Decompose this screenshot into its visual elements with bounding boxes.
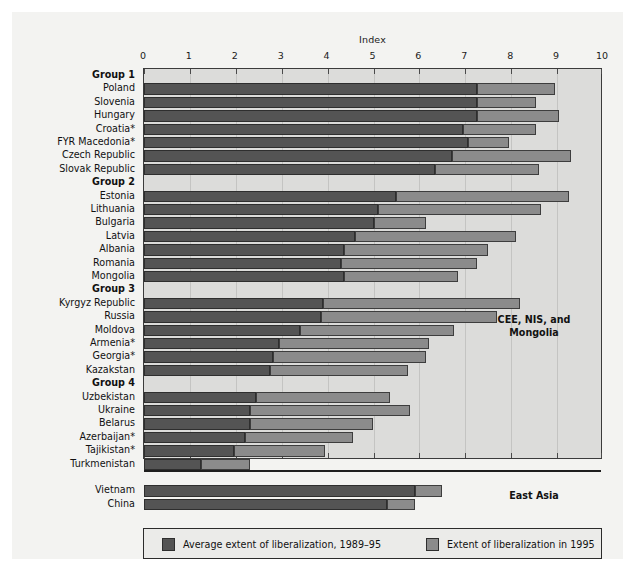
bar-extent-1995 — [321, 311, 498, 322]
chart-bar-row — [144, 297, 601, 310]
category-label: Bulgaria — [95, 215, 135, 228]
x-tick-mark — [190, 69, 191, 74]
chart-bar-row — [144, 216, 601, 229]
x-tick-mark — [328, 69, 329, 74]
bar-average-1989-95 — [144, 351, 273, 362]
category-label: Ukraine — [98, 403, 135, 416]
x-tick-label: 6 — [415, 50, 421, 61]
bar-average-1989-95 — [144, 338, 279, 349]
x-tick-label: 7 — [461, 50, 467, 61]
x-axis-tick-labels: 012345678910 — [143, 50, 602, 64]
chart-bar-row — [144, 391, 601, 404]
category-label: Moldova — [95, 323, 135, 336]
x-tick-label: 1 — [186, 50, 192, 61]
group-label: Group 4 — [92, 376, 135, 389]
bar-extent-1995 — [463, 124, 536, 135]
category-label: Romania — [93, 256, 135, 269]
x-tick-mark — [236, 69, 237, 74]
y-axis-category-labels: Group 1PolandSloveniaHungaryCroatia*FYR … — [26, 68, 139, 459]
chart-bar-row — [144, 203, 601, 216]
bar-extent-1995 — [415, 485, 443, 496]
category-label: Albania — [99, 242, 135, 255]
bar-extent-1995 — [256, 392, 389, 403]
bar-average-1989-95 — [144, 499, 387, 510]
chart-bar-row — [144, 136, 601, 149]
chart-bar-row — [144, 257, 601, 270]
chart-panel: Index 012345678910 Group 1PolandSlovenia… — [12, 12, 623, 559]
bar-extent-1995 — [273, 351, 427, 362]
category-label: Poland — [103, 81, 135, 94]
chart-bar-row — [144, 337, 601, 350]
x-tick-mark — [601, 69, 602, 74]
bar-average-1989-95 — [144, 124, 463, 135]
bar-average-1989-95 — [144, 432, 245, 443]
legend-label: Average extent of liberalization, 1989–9… — [183, 539, 381, 550]
plot-area: CEE, NIS, andMongolia East Asia — [143, 68, 602, 459]
legend-swatch-light — [426, 538, 439, 551]
bar-extent-1995 — [477, 110, 560, 121]
x-tick-label: 2 — [232, 50, 238, 61]
bar-average-1989-95 — [144, 83, 477, 94]
x-tick-mark — [601, 453, 602, 458]
chart-bar-row — [144, 82, 601, 95]
bar-extent-1995 — [468, 137, 509, 148]
bar-extent-1995 — [300, 325, 454, 336]
bar-extent-1995 — [279, 338, 428, 349]
chart-screenshot: Index 012345678910 Group 1PolandSlovenia… — [0, 0, 635, 571]
bar-extent-1995 — [387, 499, 415, 510]
chart-bar-row — [144, 350, 601, 363]
x-tick-label: 9 — [553, 50, 559, 61]
bar-average-1989-95 — [144, 392, 256, 403]
bar-average-1989-95 — [144, 217, 374, 228]
x-tick-label: 4 — [324, 50, 330, 61]
category-label: Azerbaijan* — [79, 430, 135, 443]
chart-bar-row — [144, 458, 601, 471]
x-tick-label: 0 — [140, 50, 146, 61]
x-tick-label: 5 — [369, 50, 375, 61]
bar-average-1989-95 — [144, 271, 344, 282]
bar-average-1989-95 — [144, 365, 270, 376]
chart-bar-row — [144, 190, 601, 203]
chart-bar-row — [144, 444, 601, 457]
category-label: Slovak Republic — [59, 162, 135, 175]
category-label: Kazakstan — [86, 363, 135, 376]
x-tick-mark — [419, 69, 420, 74]
bar-average-1989-95 — [144, 164, 435, 175]
legend-swatch-dark — [162, 538, 175, 551]
bar-extent-1995 — [344, 244, 489, 255]
bar-extent-1995 — [477, 83, 555, 94]
chart-legend: Average extent of liberalization, 1989–9… — [143, 528, 602, 559]
category-label: Armenia* — [90, 336, 135, 349]
bar-average-1989-95 — [144, 191, 396, 202]
group-label: Group 3 — [92, 282, 135, 295]
bar-extent-1995 — [250, 418, 374, 429]
x-axis-title: Index — [143, 34, 602, 45]
category-label: Russia — [104, 309, 135, 322]
bar-extent-1995 — [477, 97, 537, 108]
bar-extent-1995 — [323, 298, 520, 309]
bar-extent-1995 — [250, 405, 411, 416]
x-tick-mark — [144, 69, 145, 74]
bar-average-1989-95 — [144, 97, 477, 108]
bar-extent-1995 — [245, 432, 353, 443]
category-label: Croatia* — [96, 122, 135, 135]
bar-average-1989-95 — [144, 311, 321, 322]
category-label: Latvia — [106, 229, 135, 242]
chart-bar-row — [144, 431, 601, 444]
category-label: Slovenia — [94, 95, 135, 108]
chart-bar-row — [144, 163, 601, 176]
bar-average-1989-95 — [144, 485, 415, 496]
category-label: Belarus — [99, 416, 135, 429]
x-tick-label: 8 — [507, 50, 513, 61]
x-tick-mark — [282, 69, 283, 74]
bar-extent-1995 — [396, 191, 568, 202]
x-tick-label: 10 — [596, 50, 608, 61]
chart-bar-row — [144, 498, 601, 511]
bar-average-1989-95 — [144, 244, 344, 255]
category-label: Lithuania — [91, 202, 135, 215]
group-label: Group 1 — [92, 68, 135, 81]
bar-extent-1995 — [270, 365, 408, 376]
bar-average-1989-95 — [144, 258, 341, 269]
chart-bar-row — [144, 96, 601, 109]
x-tick-mark — [465, 69, 466, 74]
